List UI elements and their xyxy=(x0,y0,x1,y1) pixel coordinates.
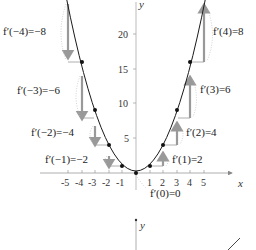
y-axis-label: y xyxy=(138,0,144,10)
x-tick-label: -1 xyxy=(116,177,124,188)
x-tick-label: -5 xyxy=(61,177,69,188)
x-tick-label: -2 xyxy=(102,177,110,188)
label-f-prime-0: f′(0)=0 xyxy=(150,187,181,200)
x-tick-label: 4 xyxy=(187,177,192,188)
label-f-prime-neg4: f′(−4)=−8 xyxy=(3,25,47,38)
x-tick-labels: -5 -4 -3 -2 -1 1 2 3 4 5 xyxy=(61,177,206,188)
x-axis-label: x xyxy=(237,177,243,189)
y-tick-label: 5 xyxy=(124,133,129,144)
label-f-prime-1: f′(1)=2 xyxy=(172,153,203,166)
y-tick-labels: 5 10 15 20 xyxy=(118,29,129,144)
label-f-prime-neg3: f′(−3)=−6 xyxy=(17,84,61,97)
x-tick-label: -4 xyxy=(75,177,83,188)
label-f-prime-4: f′(4)=8 xyxy=(213,25,244,38)
label-f-prime-2: f′(2)=4 xyxy=(186,126,217,139)
y-tick-label: 15 xyxy=(118,64,128,75)
y-ticks xyxy=(133,34,136,138)
label-f-prime-3: f′(3)=6 xyxy=(200,83,231,96)
x-tick-label: 5 xyxy=(201,177,206,188)
label-f-prime-neg2: f′(−2)=−4 xyxy=(31,126,75,139)
derivative-diagram: x y -5 -4 -3 -2 -1 1 2 3 4 5 5 10 15 20 xyxy=(0,0,256,250)
label-f-prime-neg1: f′(−1)=−2 xyxy=(45,153,88,166)
lower-y-axis-label: y xyxy=(139,219,145,231)
derivative-labels: f′(−4)=−8 f′(−3)=−6 f′(−2)=−4 f′(−1)=−2 … xyxy=(3,25,244,200)
y-tick-label: 10 xyxy=(118,98,128,109)
x-tick-label: -3 xyxy=(88,177,96,188)
y-tick-label: 20 xyxy=(118,29,128,40)
lower-diagram: y xyxy=(135,219,240,250)
